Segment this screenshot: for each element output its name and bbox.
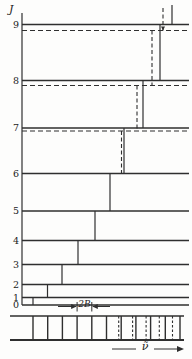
level-label-J4: 4	[13, 235, 19, 246]
rotational-energy-level-figure: 0123456789 J 2B ν̃	[0, 0, 192, 359]
level-label-J9: 9	[13, 19, 19, 30]
level-label-J1: 1	[13, 292, 19, 303]
level-label-J5: 5	[13, 205, 19, 216]
j-axis-label: J	[9, 4, 13, 15]
level-label-J3: 3	[13, 259, 19, 270]
spacing-label: 2B	[76, 300, 93, 309]
transition-arrowhead-9-10	[161, 27, 165, 31]
level-label-J2: 2	[13, 279, 19, 290]
level-label-J6: 6	[13, 168, 19, 179]
level-label-J7: 7	[13, 122, 19, 133]
level-label-J8: 8	[13, 75, 19, 86]
wavenumber-arrowhead	[177, 346, 184, 352]
wavenumber-label: ν̃	[137, 341, 153, 352]
diagram-canvas: 0123456789	[0, 0, 192, 359]
